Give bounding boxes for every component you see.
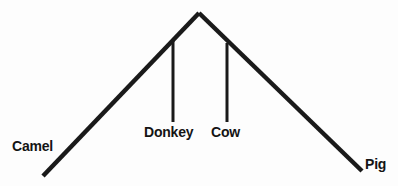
taxon-label-pig: Pig	[365, 157, 386, 171]
taxon-label-cow: Cow	[211, 125, 240, 139]
taxon-label-donkey: Donkey	[144, 125, 193, 139]
cladogram-canvas	[0, 0, 398, 186]
cladogram-diagram: Camel Donkey Cow Pig	[0, 0, 398, 186]
taxon-label-camel: Camel	[12, 139, 53, 153]
